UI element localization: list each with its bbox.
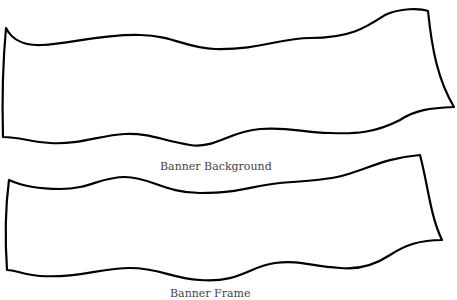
banner-background-label: Banner Background bbox=[160, 160, 272, 173]
banner-background-shape bbox=[3, 9, 454, 145]
banner-frame-shape bbox=[6, 155, 442, 280]
banner-frame-label: Banner Frame bbox=[170, 287, 250, 300]
